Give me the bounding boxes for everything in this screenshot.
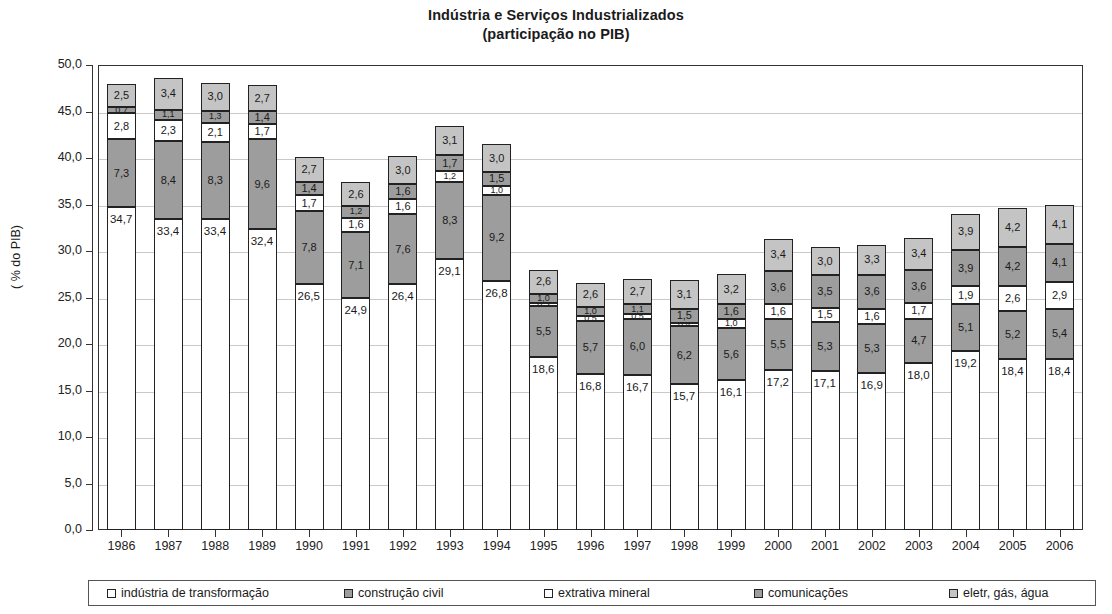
bar-segment[interactable]: 1,6: [341, 218, 370, 233]
bar-segment[interactable]: 17,1: [811, 371, 840, 530]
bar-segment[interactable]: 5,1: [951, 304, 980, 351]
bar-column[interactable]: 33,48,42,31,13,4: [154, 65, 183, 530]
bar-segment[interactable]: 5,6: [717, 328, 746, 380]
bar-column[interactable]: 34,77,32,80,72,5: [107, 65, 136, 530]
bar-segment[interactable]: 8,3: [435, 182, 464, 259]
bar-segment[interactable]: 4,1: [1045, 244, 1074, 282]
bar-column[interactable]: 32,49,61,71,42,7: [248, 65, 277, 530]
bar-segment[interactable]: 3,4: [904, 238, 933, 270]
bar-segment[interactable]: 33,4: [201, 219, 230, 530]
bar-segment[interactable]: 3,9: [951, 214, 980, 250]
bar-segment[interactable]: 2,7: [248, 85, 277, 110]
bar-segment[interactable]: 3,1: [670, 280, 699, 309]
bar-segment[interactable]: 6,2: [670, 326, 699, 384]
bar-segment[interactable]: 3,1: [435, 126, 464, 155]
bar-segment[interactable]: 2,8: [107, 113, 136, 139]
bar-segment[interactable]: 3,6: [857, 275, 886, 308]
legend-item[interactable]: eletr, gás, água: [949, 586, 1048, 600]
bar-segment[interactable]: 9,2: [482, 195, 511, 281]
bar-segment[interactable]: 4,2: [998, 208, 1027, 247]
bar-column[interactable]: 26,57,81,71,42,7: [295, 65, 324, 530]
bar-segment[interactable]: 3,4: [154, 78, 183, 110]
bar-segment[interactable]: 0,4: [670, 323, 699, 327]
bar-segment[interactable]: 32,4: [248, 229, 277, 530]
bar-column[interactable]: 18,04,71,73,63,4: [904, 65, 933, 530]
bar-segment[interactable]: 2,6: [576, 283, 605, 307]
bar-segment[interactable]: 0,5: [623, 314, 652, 319]
bar-segment[interactable]: 0,5: [576, 316, 605, 321]
bar-segment[interactable]: 1,4: [248, 111, 277, 124]
bar-segment[interactable]: 18,0: [904, 363, 933, 530]
bar-segment[interactable]: 1,0: [576, 307, 605, 316]
bar-column[interactable]: 18,65,50,31,02,6: [529, 65, 558, 530]
bar-segment[interactable]: 2,9: [1045, 282, 1074, 309]
bar-segment[interactable]: 1,5: [811, 308, 840, 322]
bar-column[interactable]: 26,47,61,61,63,0: [388, 65, 417, 530]
bar-segment[interactable]: 8,3: [201, 142, 230, 219]
bar-segment[interactable]: 2,6: [998, 286, 1027, 310]
bar-segment[interactable]: 5,2: [998, 311, 1027, 359]
bar-segment[interactable]: 2,1: [201, 123, 230, 143]
bar-segment[interactable]: 3,3: [857, 245, 886, 276]
legend-item[interactable]: construção civil: [344, 586, 443, 600]
bar-segment[interactable]: 6,0: [623, 319, 652, 375]
bar-segment[interactable]: 26,8: [482, 281, 511, 530]
bar-segment[interactable]: 1,2: [435, 171, 464, 182]
bar-column[interactable]: 33,48,32,11,33,0: [201, 65, 230, 530]
bar-segment[interactable]: 19,2: [951, 351, 980, 530]
bar-segment[interactable]: 26,4: [388, 284, 417, 530]
bar-segment[interactable]: 2,6: [529, 270, 558, 294]
bar-segment[interactable]: 4,1: [1045, 205, 1074, 243]
bar-segment[interactable]: 3,2: [717, 274, 746, 304]
bar-segment[interactable]: 2,7: [623, 279, 652, 304]
bar-segment[interactable]: 3,0: [388, 156, 417, 184]
bar-segment[interactable]: 1,6: [388, 184, 417, 199]
bar-segment[interactable]: 3,0: [201, 83, 230, 111]
bar-segment[interactable]: 1,1: [623, 304, 652, 314]
bar-segment[interactable]: 1,9: [951, 286, 980, 304]
bar-segment[interactable]: 1,6: [717, 304, 746, 319]
bar-column[interactable]: 29,18,31,21,73,1: [435, 65, 464, 530]
bar-segment[interactable]: 16,9: [857, 373, 886, 530]
bar-segment[interactable]: 1,1: [154, 110, 183, 120]
bar-segment[interactable]: 18,6: [529, 357, 558, 530]
bar-segment[interactable]: 33,4: [154, 219, 183, 530]
legend-item[interactable]: comunicações: [754, 586, 848, 600]
bar-segment[interactable]: 2,7: [295, 157, 324, 182]
bar-segment[interactable]: 5,4: [1045, 309, 1074, 359]
bar-segment[interactable]: 2,6: [341, 182, 370, 206]
bar-column[interactable]: 15,76,20,41,53,1: [670, 65, 699, 530]
bar-segment[interactable]: 7,6: [388, 214, 417, 285]
bar-segment[interactable]: 9,6: [248, 139, 277, 228]
bar-segment[interactable]: 1,7: [435, 155, 464, 171]
bar-segment[interactable]: 3,4: [764, 239, 793, 271]
bar-segment[interactable]: 3,5: [811, 275, 840, 308]
bar-segment[interactable]: 18,4: [998, 359, 1027, 530]
bar-column[interactable]: 16,85,70,51,02,6: [576, 65, 605, 530]
bar-column[interactable]: 19,25,11,93,93,9: [951, 65, 980, 530]
bar-segment[interactable]: 3,0: [811, 247, 840, 275]
bar-segment[interactable]: 0,3: [529, 303, 558, 306]
bar-segment[interactable]: 1,4: [295, 182, 324, 195]
bar-segment[interactable]: 1,7: [248, 124, 277, 140]
bar-segment[interactable]: 7,8: [295, 211, 324, 284]
bar-segment[interactable]: 17,2: [764, 370, 793, 530]
bar-segment[interactable]: 5,3: [857, 324, 886, 373]
bar-segment[interactable]: 16,8: [576, 374, 605, 530]
bar-segment[interactable]: 5,5: [529, 306, 558, 357]
bar-column[interactable]: 17,25,51,63,63,4: [764, 65, 793, 530]
bar-segment[interactable]: 5,5: [764, 319, 793, 370]
bar-segment[interactable]: 5,3: [811, 322, 840, 371]
bar-segment[interactable]: 26,5: [295, 284, 324, 530]
bar-segment[interactable]: 1,7: [295, 195, 324, 211]
bar-segment[interactable]: 1,6: [388, 199, 417, 214]
bar-segment[interactable]: 1,0: [717, 319, 746, 328]
bar-segment[interactable]: 2,5: [107, 84, 136, 107]
bar-column[interactable]: 24,97,11,61,22,6: [341, 65, 370, 530]
bar-segment[interactable]: 1,5: [670, 309, 699, 323]
bar-column[interactable]: 18,45,22,64,24,2: [998, 65, 1027, 530]
bar-segment[interactable]: 3,9: [951, 250, 980, 286]
bar-segment[interactable]: 1,3: [201, 111, 230, 123]
bar-segment[interactable]: 18,4: [1045, 359, 1074, 530]
bar-segment[interactable]: 4,2: [998, 247, 1027, 286]
